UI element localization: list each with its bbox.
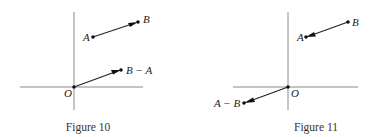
point-a [304, 35, 308, 39]
vector-b-to-a [312, 22, 348, 35]
vector-b-minus-a [74, 72, 115, 87]
label-origin: O [64, 87, 72, 99]
label-b: B [143, 13, 150, 25]
vector-a-to-b [93, 24, 132, 37]
label-a: A [82, 31, 90, 43]
label-origin: O [291, 87, 299, 99]
label-a: A [296, 31, 304, 43]
point-a [91, 35, 95, 39]
point-a-minus-b [242, 101, 246, 105]
figure-caption: Figure 10 [66, 121, 111, 134]
point-b [136, 20, 140, 24]
point-b [346, 20, 350, 24]
label-a-minus-b: A − B [213, 97, 240, 109]
label-b: B [352, 16, 359, 28]
point-origin [72, 85, 76, 89]
arrowhead-icon [244, 98, 255, 104]
figure-11: A B A − B O Figure 11 [213, 12, 359, 134]
figure-10: A B B − A O Figure 10 [20, 12, 152, 134]
vector-a-minus-b [250, 87, 288, 101]
figure-caption: Figure 11 [294, 121, 338, 134]
point-b-minus-a [119, 68, 123, 72]
point-origin [286, 85, 290, 89]
label-b-minus-a: B − A [126, 64, 152, 76]
